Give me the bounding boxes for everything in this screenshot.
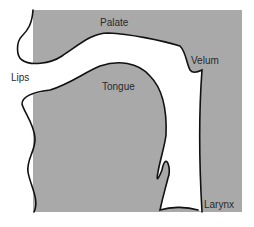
vocal-tract-diagram (0, 0, 254, 227)
tongue-label: Tongue (102, 82, 135, 92)
palate-label: Palate (100, 18, 128, 28)
velum-label: Velum (191, 56, 219, 66)
lips-label: Lips (11, 73, 29, 83)
larynx-label: Larynx (204, 200, 234, 210)
